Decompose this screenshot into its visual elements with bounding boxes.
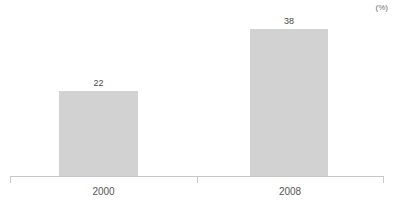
bar-2008: [250, 29, 328, 176]
bar-value-label-2008: 38: [250, 16, 328, 27]
x-axis-label-2000: 2000: [10, 186, 197, 198]
x-axis-tick-left: [10, 176, 11, 183]
x-axis-label-2008: 2008: [197, 186, 383, 198]
bar-2000: [59, 91, 138, 176]
bar-chart: (%) 22 38 2000 2008: [0, 0, 394, 210]
bar-value-label-2000: 22: [59, 78, 138, 89]
x-axis-tick-middle: [197, 176, 198, 183]
x-axis-tick-right: [383, 176, 384, 183]
plot-area: 22 38: [0, 0, 394, 176]
